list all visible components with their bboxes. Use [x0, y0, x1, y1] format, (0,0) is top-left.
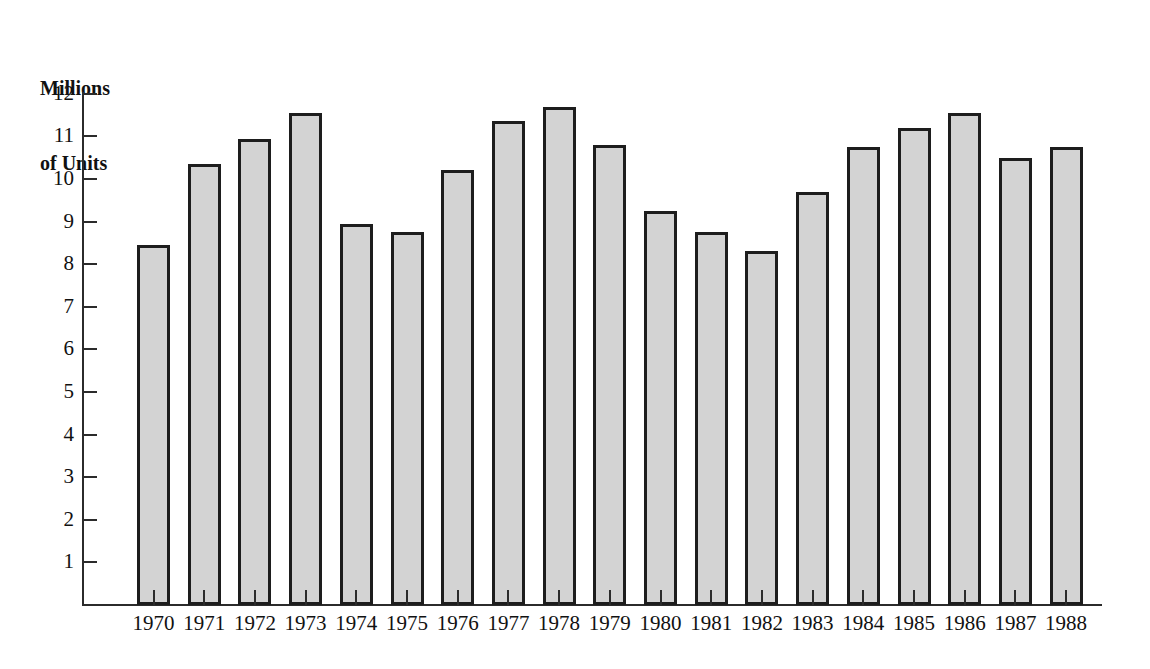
- plot-area: 121110987654321 197019711972197319741975…: [0, 0, 1150, 669]
- x-axis-tick: [153, 590, 155, 605]
- x-axis-tick: [1065, 590, 1067, 605]
- x-axis-tick: [355, 590, 357, 605]
- bar-1979: [593, 145, 626, 605]
- bar-1970: [137, 245, 170, 605]
- x-axis-tick: [761, 590, 763, 605]
- y-axis-tick-label: 5: [34, 381, 74, 402]
- x-axis-tick: [710, 590, 712, 605]
- bar-1972: [238, 139, 271, 605]
- y-axis-tick: [84, 306, 97, 308]
- y-axis-tick-label: 1: [34, 551, 74, 572]
- x-axis-tick: [812, 590, 814, 605]
- x-axis-tick: [660, 590, 662, 605]
- x-axis-tick: [964, 590, 966, 605]
- x-axis-tick: [254, 590, 256, 605]
- x-axis-tick: [305, 590, 307, 605]
- bar-1982: [745, 251, 778, 605]
- y-axis-tick: [84, 135, 97, 137]
- bar-1975: [391, 232, 424, 605]
- bar-1973: [289, 113, 322, 605]
- y-axis-tick-label: 4: [34, 424, 74, 445]
- y-axis-tick-label: 12: [34, 83, 74, 104]
- x-axis-tick: [203, 590, 205, 605]
- x-axis-tick: [507, 590, 509, 605]
- x-axis-tick: [1014, 590, 1016, 605]
- y-axis-tick-label: 7: [34, 296, 74, 317]
- x-axis-tick: [913, 590, 915, 605]
- y-axis-tick-label: 6: [34, 338, 74, 359]
- bar-1985: [898, 128, 931, 605]
- x-axis-tick-label: 1988: [1036, 613, 1096, 634]
- y-axis-tick: [84, 221, 97, 223]
- bar-1978: [543, 107, 576, 605]
- y-axis-tick: [84, 348, 97, 350]
- bar-1986: [948, 113, 981, 605]
- x-axis-tick: [862, 590, 864, 605]
- y-axis-tick: [84, 178, 97, 180]
- bar-1983: [796, 192, 829, 605]
- y-axis-tick-label: 11: [34, 125, 74, 146]
- y-axis-tick: [84, 434, 97, 436]
- x-axis-tick: [406, 590, 408, 605]
- x-axis-tick: [609, 590, 611, 605]
- bar-1976: [441, 170, 474, 605]
- y-axis-tick: [84, 476, 97, 478]
- y-axis-tick: [84, 391, 97, 393]
- bar-1984: [847, 147, 880, 605]
- bar-1981: [695, 232, 728, 605]
- bar-chart-figure: Millions of Units 121110987654321 197019…: [0, 0, 1150, 669]
- x-axis-tick: [558, 590, 560, 605]
- y-axis-tick-label: 10: [34, 168, 74, 189]
- y-axis-tick-label: 8: [34, 253, 74, 274]
- y-axis-tick-label: 2: [34, 509, 74, 530]
- y-axis-tick: [84, 561, 97, 563]
- y-axis-tick-label: 3: [34, 466, 74, 487]
- y-axis-tick: [84, 519, 97, 521]
- bar-1988: [1050, 147, 1083, 605]
- y-axis-tick-label: 9: [34, 211, 74, 232]
- y-axis-tick: [84, 93, 97, 95]
- bar-1987: [999, 158, 1032, 605]
- bar-1971: [188, 164, 221, 605]
- bar-1980: [644, 211, 677, 605]
- bar-1977: [492, 121, 525, 605]
- y-axis-tick: [84, 263, 97, 265]
- bar-1974: [340, 224, 373, 605]
- x-axis-tick: [457, 590, 459, 605]
